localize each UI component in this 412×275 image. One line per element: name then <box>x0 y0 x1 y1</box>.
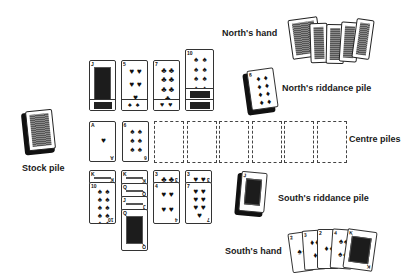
card-rank-bottom: K <box>367 264 371 269</box>
empty-centre-pile[interactable] <box>284 121 314 163</box>
north-column-card[interactable]: 1010♠♠♠♠♠♠♠♠♠♠ <box>185 49 214 111</box>
face-card-art <box>126 190 143 192</box>
pip-spades: ♠ <box>129 128 135 136</box>
card-rank: 6 <box>124 123 127 128</box>
card-rank: 4 <box>334 230 337 235</box>
pip-spades: ♠ <box>193 56 200 64</box>
empty-centre-pile[interactable] <box>187 121 217 163</box>
card-rank: 8 <box>249 72 252 77</box>
pip-clubs: ♣ <box>168 76 174 84</box>
pip-spades: ♠ <box>137 128 143 136</box>
face-card-art <box>126 177 143 179</box>
pip-clubs: ♣ <box>161 86 167 94</box>
empty-centre-pile[interactable] <box>219 121 249 163</box>
souths-hand-label: South's hand <box>225 246 282 256</box>
pip-spades: ♠ <box>201 66 208 74</box>
pip-diamonds: ♦ <box>266 98 273 107</box>
face-card-art <box>126 216 143 244</box>
pip-spades: ♠♠ <box>128 101 144 108</box>
face-card-art <box>190 91 210 98</box>
pip-spades: ♠ <box>193 75 200 83</box>
card-rank: 4 <box>155 184 158 189</box>
pip-spades: ♠ <box>201 56 208 64</box>
card-rank: 7 <box>187 184 190 189</box>
centre-pile-card[interactable]: 66♠♠♠♠♠♠ <box>122 121 149 162</box>
norths-riddance-pile-label: North's riddance pile <box>282 83 371 93</box>
centre-piles-label: Centre piles <box>349 134 401 144</box>
pip-hearts: ♥ <box>197 212 203 220</box>
pip-hearts: ♥ <box>129 68 135 76</box>
overlapping-card-Q[interactable] <box>186 99 213 111</box>
card-rank-bottom: A <box>110 155 114 160</box>
south-column-card[interactable]: 77♥♥♥♥♥♥♥ <box>185 182 212 224</box>
south-column-card[interactable]: QQ <box>121 209 148 251</box>
card-rank: A <box>91 123 95 128</box>
face-card-art <box>244 178 262 205</box>
pip-clubs: ♣ <box>168 86 174 94</box>
pip-spades: ♠ <box>137 137 143 145</box>
pip-hearts: ♥ <box>129 81 135 89</box>
pip-spades: ♠ <box>193 66 200 74</box>
north-column-card[interactable]: JJ <box>89 60 116 111</box>
pip-hearts: ♥ <box>161 191 167 199</box>
pip-spades: ♠ <box>129 146 135 154</box>
card-pips: ♣♣♣ <box>160 176 175 177</box>
pip-spades: ♠ <box>201 75 208 83</box>
pip-hearts: ♥ <box>136 81 142 89</box>
pip-clubs: ♣ <box>161 67 167 75</box>
face-card-art <box>190 102 210 109</box>
card-rank-bottom: 4 <box>175 217 178 222</box>
stock-pile-label: Stock pile <box>22 163 65 173</box>
card-pips: ♦♦♦♦♦♦♦♦ <box>254 74 273 103</box>
card-rank: 2 <box>319 231 322 236</box>
face-card-art <box>126 203 143 205</box>
overlapping-card-J[interactable] <box>90 99 115 111</box>
card-pips: ♥♥♥♥♥♥♥ <box>192 188 207 217</box>
overlapping-card-2[interactable]: ♥♥ <box>154 99 179 111</box>
card-pips: ♠♠♠♠♠♠ <box>129 127 144 155</box>
pip-hearts: ♥ <box>136 68 142 76</box>
empty-centre-pile[interactable] <box>154 121 184 163</box>
card-rank: 3 <box>304 232 307 237</box>
south-hand-card[interactable]: KK <box>342 228 377 272</box>
riddance-top-card[interactable]: 8 ♦♦♦♦♦♦♦♦ <box>246 67 278 110</box>
card-pips: ♥♥♥ <box>192 176 207 177</box>
pip-hearts: ♥ <box>161 206 167 214</box>
card-rank: 7 <box>155 62 158 67</box>
pip-spades: ♠ <box>339 238 344 246</box>
south-column-card[interactable]: 44♥♥♥♥ <box>153 182 180 224</box>
overlapping-card-3[interactable]: ♠♠ <box>122 99 147 111</box>
stock-pile-card-back <box>25 109 56 152</box>
south-column-card[interactable]: 1010♠♠♠♠♠♠♠♠♠♠ <box>89 182 116 224</box>
pip-spades: ♠ <box>97 220 103 224</box>
riddance-top-card[interactable]: J <box>238 171 267 213</box>
empty-centre-pile[interactable] <box>317 121 347 163</box>
pip-spades: ♠ <box>129 137 135 145</box>
centre-pile-card[interactable]: AA♥ <box>89 121 116 162</box>
pip-diamonds: ♦ <box>258 99 265 108</box>
card-rank-bottom: Q <box>142 244 146 249</box>
face-card-art <box>94 177 111 179</box>
pip-hearts: ♥ <box>168 206 174 214</box>
souths-riddance-pile-label: South's riddance pile <box>278 193 369 203</box>
north-column-card[interactable]: 77♣♣♣♣♣♣♣♥♥ <box>153 60 180 111</box>
empty-centre-pile[interactable] <box>252 121 282 163</box>
card-rank: 5 <box>123 62 126 67</box>
pip-hearts: ♥ <box>168 191 174 199</box>
card-pips: ♠♠♠♠♠♠♠♠♠♠ <box>96 188 111 217</box>
pip-diamonds: ♦ <box>310 239 315 247</box>
face-card-art <box>94 102 112 109</box>
pip-spades: ♠ <box>338 251 343 259</box>
pip-spades: ♠ <box>104 220 110 224</box>
pip-spades: ♠ <box>137 146 143 154</box>
card-pips: ♥♥♥♥ <box>160 188 175 217</box>
card-rank-bottom: 7 <box>207 217 210 222</box>
norths-hand-label: North's hand <box>222 28 277 38</box>
pip-clubs: ♣ <box>168 67 174 75</box>
card-rank: 3 <box>155 172 158 177</box>
pip-hearts: ♥♥ <box>160 101 176 108</box>
pip-clubs: ♣ <box>161 76 167 84</box>
pip-diamonds: ♦ <box>325 245 329 253</box>
north-column-card[interactable]: 55♥♥♥♥♥♠♠ <box>121 60 148 111</box>
card-rank-bottom: 6 <box>144 155 147 160</box>
